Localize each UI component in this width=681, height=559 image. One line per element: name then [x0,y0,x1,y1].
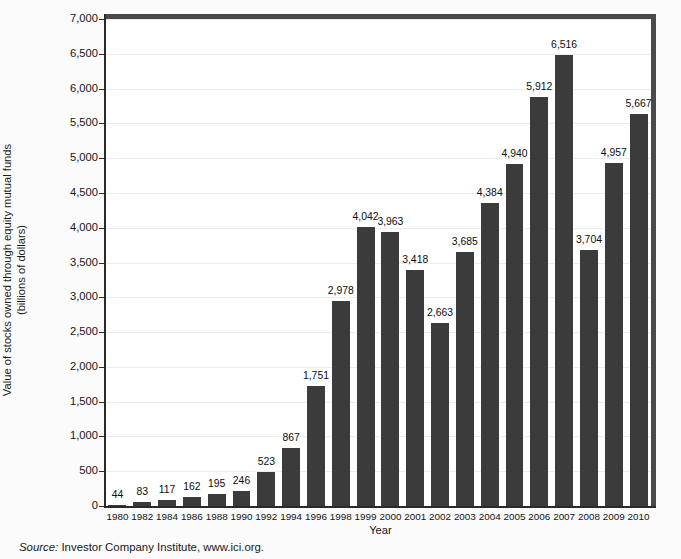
bar [506,164,524,508]
source-note: Source: Investor Company Institute, www.… [19,541,264,553]
bar [431,323,449,508]
y-axis-tick-label: 7,000 [56,12,98,24]
y-axis-tick-label: 1,000 [56,429,98,441]
y-axis-tick-mark [99,402,104,403]
bar [580,250,598,508]
y-axis-tick-label: 6,000 [56,82,98,94]
y-axis-tick-mark [99,436,104,437]
bar-value-label: 523 [244,456,288,467]
bar [357,227,375,508]
bar-value-label: 867 [269,432,313,443]
y-axis-tick-mark [99,297,104,298]
y-axis-tick-mark [99,158,104,159]
y-axis-tick-mark [99,367,104,368]
bar-value-label: 6,516 [542,39,586,50]
plot-inner: 44831171621952465238671,7512,9784,0423,9… [105,19,651,508]
y-axis-tick-label: 3,500 [56,256,98,268]
bar-value-label: 5,912 [517,81,561,92]
bar [456,252,474,508]
bar-value-label: 2,978 [319,285,363,296]
bar [555,55,573,508]
bar [630,114,648,508]
bar-value-label: 5,667 [617,98,661,109]
y-axis-tick-label: 4,500 [56,186,98,198]
y-axis-tick-mark [99,193,104,194]
y-axis-tick-label: 5,000 [56,151,98,163]
x-axis-title: Year [105,524,656,536]
y-axis-tick-mark [99,19,104,20]
y-axis-tick-label: 3,000 [56,290,98,302]
y-axis-tick-mark [99,123,104,124]
y-axis-tick-mark [99,471,104,472]
y-axis-tick-label: 4,000 [56,221,98,233]
y-axis-title: Value of stocks owned through equity mut… [1,144,28,396]
bar-value-label: 4,957 [592,147,636,158]
y-axis-tick-label: 5,500 [56,116,98,128]
bar-value-label: 3,704 [567,234,611,245]
bar [307,386,325,508]
y-axis-tick-label: 6,500 [56,47,98,59]
bar-value-label: 3,685 [443,236,487,247]
y-axis-tick-label: 2,500 [56,325,98,337]
bar-value-label: 3,963 [368,216,412,227]
y-axis-tick-mark [99,54,104,55]
y-axis-tick-label: 0 [56,499,98,511]
source-keyword: Source: [19,541,58,553]
source-text: Investor Company Institute, www.ici.org. [58,541,264,553]
y-axis-tick-mark [99,263,104,264]
y-axis-title-line1: Value of stocks owned through equity mut… [1,144,13,396]
bar-value-label: 4,384 [468,187,512,198]
y-axis-tick-mark [99,506,104,507]
y-axis-title-wrapper: Value of stocks owned through equity mut… [0,60,28,480]
y-axis-spine [104,14,106,508]
chart-figure: Value of stocks owned through equity mut… [0,0,681,559]
gridline [105,19,651,20]
bar-value-label: 3,418 [393,254,437,265]
y-axis-title-line2: (billions of dollars) [14,144,28,396]
x-axis-spine [104,506,656,508]
bar [381,232,399,508]
y-axis-tick-label: 1,500 [56,395,98,407]
bar-value-label: 1,751 [294,370,338,381]
bar-value-label: 246 [220,475,264,486]
y-axis-tick-mark [99,228,104,229]
bar [332,301,350,508]
y-axis-tick-mark [99,89,104,90]
y-axis-tick-mark [99,332,104,333]
bar-value-label: 4,940 [493,148,537,159]
x-axis-tick-label: 2010 [624,511,654,522]
y-axis-tick-label: 500 [56,464,98,476]
bar [481,203,499,508]
plot-area: 44831171621952465238671,7512,9784,0423,9… [105,14,656,508]
y-axis-tick-label: 2,000 [56,360,98,372]
bar-value-label: 2,663 [418,307,462,318]
bar [605,163,623,508]
